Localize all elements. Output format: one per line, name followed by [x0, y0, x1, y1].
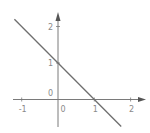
x-tick-label: -1 — [19, 105, 27, 114]
data-line — [14, 19, 121, 126]
line-chart: -1012012 — [0, 0, 150, 133]
y-axis-arrow-icon — [56, 12, 61, 21]
series-lines — [14, 19, 121, 126]
x-tick-label: 0 — [60, 105, 65, 114]
x-axis-arrow-icon — [138, 97, 146, 102]
y-tick-label: 1 — [48, 59, 53, 68]
y-tick-label: 2 — [48, 23, 53, 32]
axes — [13, 12, 146, 127]
y-tick-label: 0 — [48, 89, 53, 98]
x-tick-label: 2 — [129, 105, 134, 114]
x-tick-label: 1 — [93, 105, 98, 114]
